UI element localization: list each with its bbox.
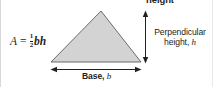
formula-equals: =	[19, 35, 27, 47]
perpendicular-line1: Perpendicular	[154, 27, 206, 37]
fraction-denominator: 2	[30, 42, 34, 50]
perpendicular-line2: height, h	[149, 38, 211, 47]
fraction-numerator: 1	[30, 33, 34, 41]
height-variable: h	[192, 37, 196, 47]
formula-lhs: A	[10, 35, 17, 47]
base-label-text: Base,	[82, 71, 104, 81]
perpendicular-height-label: Perpendicular height, h	[149, 28, 211, 47]
base-label: Base, b	[51, 72, 142, 81]
area-formula: A = 1 2 bh	[10, 33, 46, 49]
triangle-area-figure: A = 1 2 bh height Perpendicular height, …	[0, 0, 213, 87]
height-top-label: height	[146, 0, 174, 5]
formula-variables: bh	[34, 35, 47, 47]
perpendicular-line2-text: height,	[164, 37, 189, 47]
triangle-shape	[51, 11, 141, 62]
vertical-double-arrow	[143, 11, 148, 64]
base-variable: b	[107, 71, 111, 81]
formula-fraction-one-half: 1 2	[30, 33, 34, 49]
